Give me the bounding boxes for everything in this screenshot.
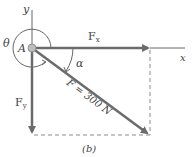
y-axis-label: y <box>22 3 30 16</box>
point-a-label: A <box>17 42 26 55</box>
point-a-marker <box>28 44 36 52</box>
f-label: F = 300 N <box>64 76 115 118</box>
force-diagram: y x θ α Fx Fy F = 300 N A (b) <box>0 0 196 157</box>
alpha-label: α <box>76 57 84 70</box>
x-axis-label: x <box>180 52 186 63</box>
fy-label: Fy <box>15 96 27 110</box>
figure-caption: (b) <box>82 143 96 154</box>
alpha-arc <box>66 48 73 71</box>
theta-label: θ <box>3 37 10 50</box>
fx-label: Fx <box>88 30 100 44</box>
